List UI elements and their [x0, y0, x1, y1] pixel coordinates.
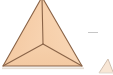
- figure-container: Triangle divided into three regions by m…: [0, 0, 113, 75]
- triangle-medians-diagram: [0, 0, 113, 75]
- partial-adjacent-figure: [99, 59, 113, 74]
- dash-mark-icon: [88, 32, 98, 33]
- base-shadow: [2, 68, 84, 70]
